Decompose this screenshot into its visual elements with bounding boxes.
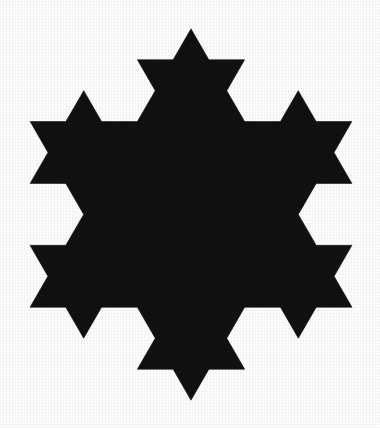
koch-snowflake-figure: [0, 0, 380, 428]
figure-canvas: Koch Snowflake: [0, 0, 380, 428]
